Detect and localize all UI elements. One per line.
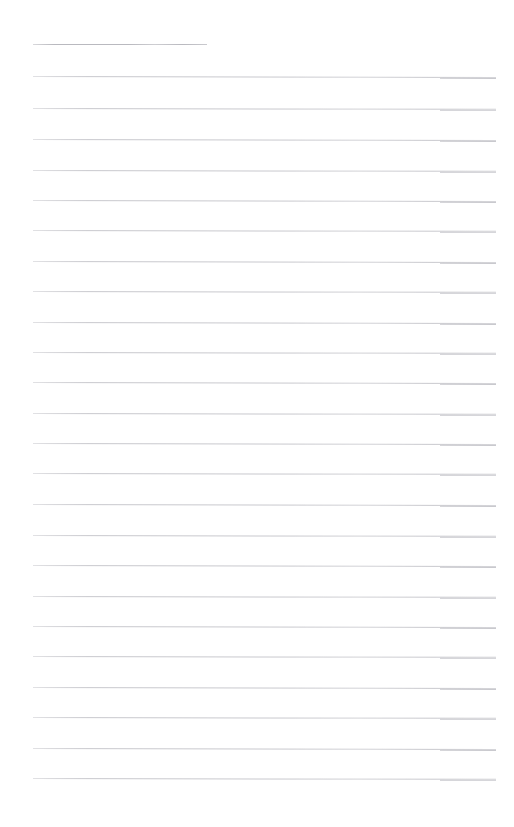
scan-step-artifact (440, 475, 496, 476)
scan-step-artifact (440, 689, 496, 690)
scan-step-artifact (440, 750, 496, 751)
scan-step-artifact (440, 324, 496, 325)
scan-step-artifact (440, 537, 496, 538)
ruled-line (33, 656, 496, 658)
scan-step-artifact (440, 445, 496, 446)
ruled-line (33, 626, 496, 628)
ruled-line (33, 170, 496, 172)
ruled-line (33, 291, 496, 293)
ruled-line (33, 352, 496, 354)
scan-step-artifact (440, 780, 496, 781)
scan-step-artifact (440, 202, 496, 203)
scan-step-artifact (440, 172, 496, 173)
ruled-line (33, 200, 496, 202)
ruled-line (33, 778, 496, 780)
scan-step-artifact (440, 78, 496, 79)
scan-step-artifact (440, 384, 496, 385)
ruled-line (33, 596, 496, 598)
scan-step-artifact (440, 293, 496, 294)
scan-step-artifact (440, 354, 496, 355)
ruled-line (33, 413, 496, 415)
ruled-line (33, 565, 496, 567)
scan-step-artifact (440, 567, 496, 568)
ruled-line (33, 535, 496, 537)
header-rule (33, 44, 207, 45)
ruled-line (33, 230, 496, 232)
ruled-line (33, 443, 496, 445)
scanned-page (0, 0, 514, 827)
scan-step-artifact (440, 232, 496, 233)
ruled-line (33, 687, 496, 689)
ruled-line (33, 473, 496, 475)
scan-step-artifact (440, 658, 496, 659)
ruled-line (33, 382, 496, 384)
ruled-line (33, 748, 496, 750)
scan-step-artifact (440, 719, 496, 720)
ruled-line (33, 76, 496, 78)
scan-step-artifact (440, 141, 496, 142)
scan-step-artifact (440, 415, 496, 416)
scan-step-artifact (440, 110, 496, 111)
ruled-line (33, 108, 496, 110)
ruled-line (33, 504, 496, 506)
ruled-line (33, 261, 496, 263)
ruled-line (33, 717, 496, 719)
scan-step-artifact (440, 263, 496, 264)
scan-step-artifact (440, 628, 496, 629)
ruled-line (33, 322, 496, 324)
scan-step-artifact (440, 598, 496, 599)
ruled-line (33, 139, 496, 141)
scan-step-artifact (440, 506, 496, 507)
